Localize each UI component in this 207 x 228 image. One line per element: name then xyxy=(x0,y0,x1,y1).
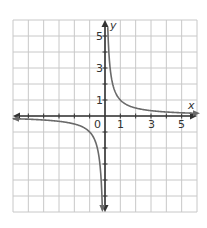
x-tick-label-1: 1 xyxy=(117,118,124,131)
x-tick-label-3: 3 xyxy=(148,118,155,131)
curve-y-equals-1-over-x xyxy=(12,27,200,212)
x-axis-label: x xyxy=(187,99,195,112)
y-tick-label-1: 1 xyxy=(96,94,103,107)
y-axis-label: y xyxy=(109,19,117,32)
origin-label: 0 xyxy=(94,118,101,131)
graph-plot: y x 0 1 3 5 1 3 5 xyxy=(0,0,207,228)
axes xyxy=(13,20,197,212)
x-tick-label-5: 5 xyxy=(178,118,185,131)
y-tick-label-3: 3 xyxy=(96,62,103,75)
y-axis-up-arrow-icon xyxy=(102,20,109,27)
y-tick-label-5: 5 xyxy=(96,30,103,43)
